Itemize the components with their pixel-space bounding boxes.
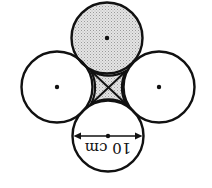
- right-center-dot: [157, 85, 161, 89]
- arrow-head-left-icon: [74, 133, 82, 140]
- diameter-label: 10 cm: [85, 139, 131, 157]
- top-center-dot: [105, 36, 109, 40]
- four-circles-diagram: 10 cm: [0, 0, 212, 188]
- left-center-dot: [55, 85, 59, 89]
- arrow-head-right-icon: [135, 133, 143, 140]
